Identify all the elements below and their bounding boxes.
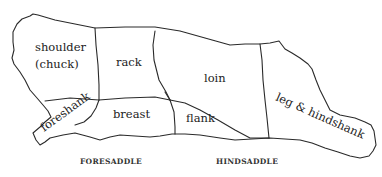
- label-loin: loin: [204, 71, 226, 85]
- lamb-cuts-diagram: shoulder (chuck) rack loin leg & hindsha…: [0, 0, 382, 177]
- divider-shoulder-rack: [95, 28, 99, 100]
- label-shoulder: shoulder: [35, 40, 86, 54]
- label-leg-hindshank: leg & hindshank: [274, 90, 368, 142]
- label-breast: breast: [113, 107, 150, 121]
- divider-upper-lower-fore: [45, 97, 170, 101]
- label-rack: rack: [116, 55, 143, 69]
- divider-loin-flank: [170, 100, 269, 138]
- label-flank: flank: [186, 111, 216, 125]
- section-foresaddle: FORESADDLE: [80, 157, 142, 166]
- label-foreshank: foreshank: [38, 88, 94, 134]
- carcass-outline: [12, 14, 376, 158]
- label-chuck: (chuck): [35, 57, 79, 71]
- divider-rack-loin: [153, 31, 170, 100]
- divider-loin-leg: [260, 44, 269, 138]
- divider-breast-flank: [165, 92, 175, 134]
- section-hindsaddle: HINDSADDLE: [216, 157, 278, 166]
